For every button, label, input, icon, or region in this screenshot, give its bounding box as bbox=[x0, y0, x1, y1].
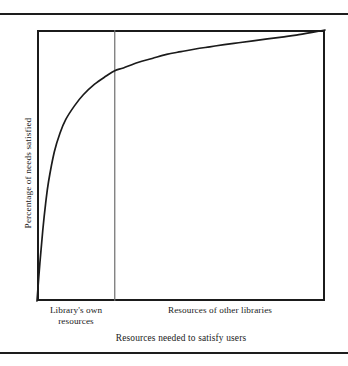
y-axis-title: Percentage of needs satisfied bbox=[20, 100, 36, 246]
region-label-line2: resources bbox=[37, 316, 115, 327]
chart-figure: Percentage of needs satisfied Library's … bbox=[0, 0, 348, 366]
region-label-line1: Resources of other libraries bbox=[168, 305, 272, 315]
x-axis-title: Resources needed to satisfy users bbox=[37, 333, 325, 343]
bottom-page-rule bbox=[0, 352, 348, 354]
region-label-library-own-resources: Library's own resources bbox=[37, 305, 115, 326]
needs-satisfied-curve bbox=[37, 30, 325, 301]
region-label-line1: Library's own bbox=[50, 305, 102, 315]
plot-area bbox=[37, 30, 325, 301]
region-label-other-libraries: Resources of other libraries bbox=[115, 305, 325, 316]
top-page-rule bbox=[0, 13, 348, 15]
